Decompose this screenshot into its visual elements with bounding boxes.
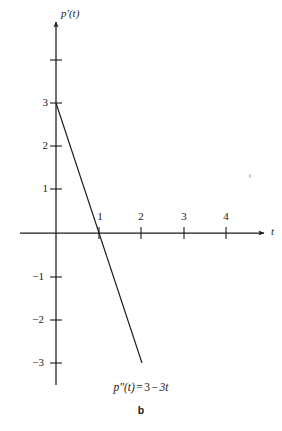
- x-tick-label-2: 2: [133, 211, 149, 222]
- x-tick-label-1: 1: [92, 211, 108, 222]
- y-tick-label-2: 2: [26, 140, 48, 151]
- figure-panel-b: p′(t) t 3 2 1 −1 −2 −3 1 2 3 4 p″(t)=3−3…: [0, 0, 282, 431]
- scan-artifact-speck: [249, 174, 251, 178]
- y-tick-label-neg1: −1: [22, 271, 44, 282]
- y-tick-label-3: 3: [26, 97, 48, 108]
- caption-minus: −: [150, 381, 160, 393]
- x-axis-label: t: [271, 226, 274, 237]
- y-tick-label-neg2: −2: [22, 314, 44, 325]
- y-axis-label: p′(t): [61, 8, 79, 19]
- y-tick-label-1: 1: [26, 183, 48, 194]
- caption-equals: =: [135, 381, 145, 393]
- equation-caption: p″(t)=3−3t: [0, 382, 282, 394]
- x-tick-label-3: 3: [176, 211, 192, 222]
- y-tick-label-neg3: −3: [22, 357, 44, 368]
- caption-slope-term: 3t: [160, 381, 169, 393]
- x-tick-label-4: 4: [218, 211, 234, 222]
- caption-function-name: p″(t): [113, 381, 134, 393]
- panel-letter: b: [0, 405, 282, 416]
